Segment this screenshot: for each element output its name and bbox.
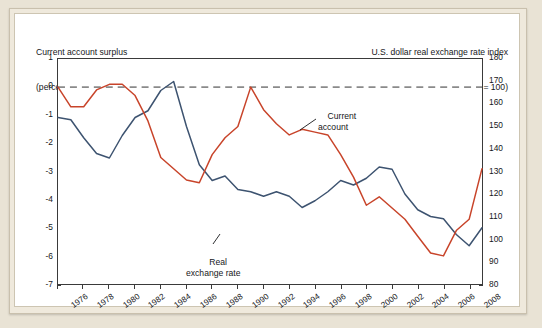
x-axis-tick-mark bbox=[134, 285, 135, 289]
right-axis-tick-label: 90 bbox=[489, 256, 498, 266]
x-axis-tick-mark bbox=[108, 285, 109, 289]
right-axis-tick-label: 130 bbox=[489, 166, 503, 176]
current-account-line bbox=[58, 84, 482, 256]
left-axis-tick-label: -4 bbox=[46, 194, 53, 204]
left-axis-tick-label: -2 bbox=[46, 137, 53, 147]
right-axis-tick-label: 150 bbox=[489, 120, 503, 130]
right-axis-tick-label: 180 bbox=[489, 52, 503, 62]
right-axis-tick-label: 140 bbox=[489, 143, 503, 153]
x-axis-tick-mark bbox=[366, 285, 367, 289]
x-axis-tick-mark bbox=[160, 285, 161, 289]
right-axis-tick-label: 120 bbox=[489, 188, 503, 198]
x-axis-tick-mark bbox=[263, 285, 264, 289]
x-axis-tick-mark bbox=[315, 285, 316, 289]
left-axis-tick-label: 1 bbox=[48, 52, 53, 62]
real-exchange-rate-line bbox=[58, 82, 482, 246]
annotation-current-account: Current account bbox=[318, 100, 356, 144]
right-axis-tick-label: 110 bbox=[489, 211, 502, 221]
annotation-real-exchange-rate: Real exchange rate bbox=[186, 246, 240, 290]
left-axis-tick-label: 0 bbox=[48, 80, 53, 90]
left-axis-tick-label: -1 bbox=[46, 109, 53, 119]
right-axis-tick-label: 80 bbox=[489, 279, 498, 289]
plot-area bbox=[57, 58, 483, 285]
x-axis-tick-mark bbox=[341, 285, 342, 289]
right-axis-tick-label: 100 bbox=[489, 234, 503, 244]
left-axis-tick-label: -3 bbox=[46, 166, 53, 176]
x-axis-tick-mark bbox=[82, 285, 83, 289]
x-axis-tick-mark bbox=[392, 285, 393, 289]
x-axis-tick-mark bbox=[57, 285, 58, 289]
x-axis-tick-mark bbox=[289, 285, 290, 289]
right-axis-tick-label: 160 bbox=[489, 97, 503, 107]
right-axis-tick-label: 170 bbox=[489, 75, 503, 85]
left-axis-tick-label: -7 bbox=[46, 279, 53, 289]
series-lines bbox=[58, 59, 482, 284]
right-axis-title: U.S. dollar real exchange rate index bbox=[371, 47, 508, 59]
annotation-real-exchange-rate-label: Real exchange rate bbox=[186, 257, 240, 278]
left-axis-tick-label: -5 bbox=[46, 222, 53, 232]
x-axis-tick-mark bbox=[444, 285, 445, 289]
figure-canvas: Current account surplus (percent of GDP)… bbox=[0, 0, 542, 328]
left-axis-tick-label: -6 bbox=[46, 251, 53, 261]
x-axis-tick-mark bbox=[418, 285, 419, 289]
x-axis-tick-mark bbox=[470, 285, 471, 289]
annotation-current-account-label: Current account bbox=[318, 111, 356, 132]
